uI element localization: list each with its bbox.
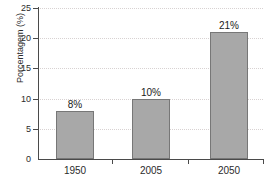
y-tick-label: 20 [5,33,31,43]
y-axis-tick-labels: 25 20 15 10 5 0 [0,0,31,183]
x-axis-line [38,159,264,160]
y-tick-label: 15 [5,63,31,73]
y-tick-label: 25 [5,3,31,13]
y-tick-label: 0 [5,154,31,164]
x-tick-mark [188,159,189,164]
bar-value-label-2005: 10% [128,87,174,98]
x-tick-label-2050: 2050 [199,165,259,176]
bar-chart: Porcentagem (%) 25 20 15 10 5 0 8% 10% 2… [0,0,272,183]
y-axis-line [38,7,39,160]
bar-value-label-1950: 8% [52,99,98,110]
y-tick-label: 5 [5,124,31,134]
x-tick-label-1950: 1950 [45,165,105,176]
y-tick-label: 10 [5,94,31,104]
bar-2005 [132,99,170,159]
bar-2050 [210,32,248,159]
x-tick-mark [263,159,264,164]
bar-1950 [56,111,94,159]
x-tick-label-2005: 2005 [121,165,181,176]
bar-value-label-2050: 21% [206,20,252,31]
gridline [38,8,263,9]
x-tick-mark [112,159,113,164]
